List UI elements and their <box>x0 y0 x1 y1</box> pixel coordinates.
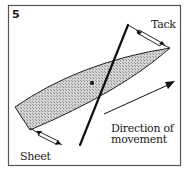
sheet-label: Sheet <box>20 151 51 162</box>
figure-number: 5 <box>12 9 20 20</box>
sail-shape <box>15 48 170 130</box>
diagram-figure: 5 Tack Sheet Direction of movement <box>0 0 189 173</box>
sheet-connector-icon <box>30 128 62 145</box>
pivot-dot <box>90 81 94 85</box>
tack-label: Tack <box>151 19 176 30</box>
direction-label: Direction of movement <box>111 123 174 145</box>
direction-label-line2: movement <box>111 134 174 145</box>
